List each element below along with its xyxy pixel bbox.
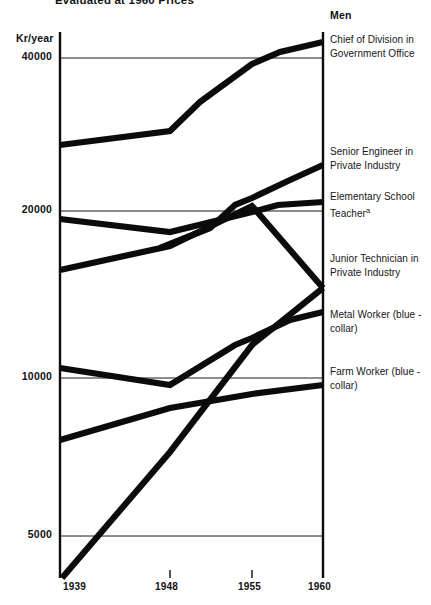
series-label-junior-technician: Junior Technician in Private Industry	[330, 252, 430, 279]
series-label-farm-worker: Farm Worker (blue - collar)	[330, 365, 430, 392]
series-line-farm-worker	[60, 385, 323, 440]
gridlines	[60, 58, 323, 536]
series-label-line2: Private Industry	[330, 160, 400, 171]
series-label-metal-worker: Metal Worker (blue - collar)	[330, 308, 430, 335]
y-tick-label-5000: 5000	[0, 528, 52, 540]
series-label-footnote-marker: a	[366, 206, 370, 215]
series-label-line1: Elementary School	[330, 191, 415, 202]
x-tick-marks	[170, 570, 252, 578]
series-label-line1: Chief of Division in	[330, 34, 414, 45]
series-label-line2: Teacher	[330, 208, 366, 219]
series-label-line2: collar)	[330, 323, 358, 334]
series-line-steep-riser	[62, 288, 323, 578]
series-label-line2: Government Office	[330, 48, 415, 59]
series-label-line2: collar)	[330, 380, 358, 391]
y-tick-label-20000: 20000	[0, 203, 52, 215]
x-tick-label-1939: 1939	[63, 581, 86, 592]
series-label-elementary-school-teacher: Elementary School Teachera	[330, 190, 430, 220]
series-line-junior-technician	[60, 206, 323, 288]
y-tick-label-10000: 10000	[0, 370, 52, 382]
series-label-line2: Private Industry	[330, 267, 400, 278]
series-label-line1: Junior Technician in	[330, 253, 419, 264]
plot-area	[0, 0, 431, 605]
x-tick-label-1948: 1948	[155, 581, 178, 592]
series-label-line1: Senior Engineer in	[330, 146, 413, 157]
y-tick-label-40000: 40000	[0, 50, 52, 62]
x-tick-label-1960: 1960	[308, 581, 331, 592]
series-line-elementary-school-teacher	[60, 202, 323, 232]
series-label-line1: Farm Worker (blue -	[330, 366, 420, 377]
series-label-chief-of-division: Chief of Division in Government Office	[330, 33, 430, 60]
series-line-chief-of-division	[60, 42, 323, 145]
x-tick-label-1955: 1955	[238, 581, 261, 592]
chart-container: Evaluated at 1960 Prices Kr/year Men	[0, 0, 431, 605]
series-label-line1: Metal Worker (blue -	[330, 309, 421, 320]
series-label-senior-engineer: Senior Engineer in Private Industry	[330, 145, 430, 172]
